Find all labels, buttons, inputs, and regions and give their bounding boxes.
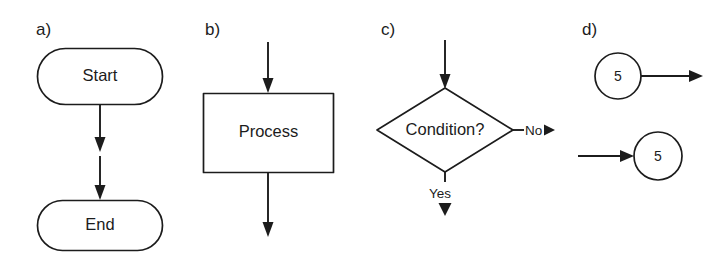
flowchart-symbols-figure: a) Start End b) Process c) Condition? bbox=[0, 0, 722, 269]
branch-yes-label: Yes bbox=[429, 186, 451, 201]
process-outbound-arrow-head bbox=[263, 222, 274, 237]
decision-inbound-arrow-head bbox=[440, 74, 451, 89]
end-terminator-label: End bbox=[85, 215, 114, 233]
branch-no-arrow-head bbox=[544, 125, 555, 136]
connector-in-label: 5 bbox=[654, 148, 662, 164]
process-inbound-arrow-head bbox=[263, 78, 274, 93]
connector-out-arrow-head bbox=[689, 70, 703, 82]
middle-to-end-arrow-head bbox=[95, 185, 106, 200]
panel-label-c: c) bbox=[381, 20, 395, 39]
connector-in-arrow-head bbox=[620, 150, 634, 162]
panel-label-a: a) bbox=[36, 20, 51, 39]
panel-label-b: b) bbox=[205, 20, 220, 39]
branch-no-label: No bbox=[525, 123, 542, 138]
branch-yes-arrow-head bbox=[439, 203, 452, 216]
start-terminator-label: Start bbox=[83, 66, 118, 84]
decision-diamond-label: Condition? bbox=[406, 120, 485, 138]
process-box-label: Process bbox=[239, 122, 299, 140]
connector-out-label: 5 bbox=[614, 68, 622, 84]
start-to-middle-arrow-head bbox=[95, 137, 106, 152]
panel-label-d: d) bbox=[582, 20, 597, 39]
